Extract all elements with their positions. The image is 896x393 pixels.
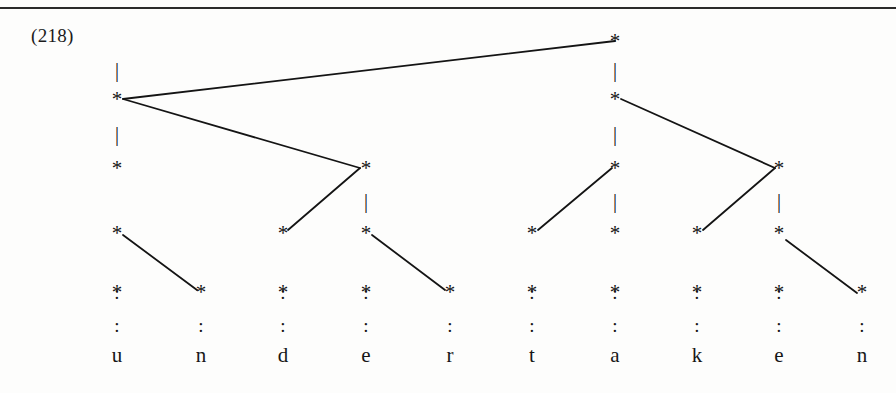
segment-label-5: t	[529, 345, 535, 366]
association-line-e-to-r-level1	[372, 235, 445, 290]
segment-label-2: d	[278, 345, 289, 366]
grid-mark-level4-col0: *	[112, 89, 123, 110]
grid-stem-col0-5-4: |	[115, 60, 119, 80]
grid-dot-col6-row6: :	[612, 316, 617, 335]
segment-label-0: u	[112, 345, 123, 366]
grid-stem-col0-4-3: |	[115, 124, 119, 144]
grid-mark-level1-col1: *	[196, 282, 207, 303]
segment-label-4: r	[447, 345, 454, 366]
grid-dot-col3-row6: :	[363, 316, 368, 335]
grid-stem-col6-4-3: |	[613, 124, 617, 144]
grid-stem-col3-3-2: |	[364, 191, 368, 211]
grid-dot-col7-row5: :	[694, 283, 699, 302]
association-line-u-to-e-level3	[123, 99, 360, 168]
grid-mark-level2-col7: *	[692, 223, 703, 244]
grid-mark-level1-col9: *	[857, 282, 868, 303]
grid-dot-col8-row5: :	[776, 283, 781, 302]
grid-mark-level4-col6: *	[610, 89, 621, 110]
grid-mark-level5-col6: *	[610, 31, 621, 52]
grid-mark-level2-col5: *	[527, 223, 538, 244]
grid-mark-level3-col0: *	[112, 158, 123, 179]
grid-mark-level2-col3: *	[361, 223, 372, 244]
grid-dot-col0-row5: :	[114, 283, 119, 302]
grid-mark-level2-col0: *	[112, 223, 123, 244]
grid-mark-level3-col8: *	[774, 158, 785, 179]
segment-label-9: n	[857, 345, 868, 366]
segment-label-3: e	[361, 345, 370, 366]
grid-mark-level3-col6: *	[610, 158, 621, 179]
association-line-a-to-e-level3	[621, 99, 775, 168]
segment-label-7: k	[692, 345, 703, 366]
grid-dot-col5-row5: :	[529, 283, 534, 302]
association-line-u-to-n-level1	[123, 235, 197, 290]
grid-stem-col6-5-4: |	[613, 60, 617, 80]
grid-stem-col8-3-2: |	[777, 191, 781, 211]
grid-dot-col3-row5: :	[363, 283, 368, 302]
segment-label-1: n	[196, 345, 207, 366]
example-figure-page: (218) ************************|||||||:::…	[0, 0, 896, 393]
grid-dot-col0-row6: :	[114, 316, 119, 335]
grid-dot-col2-row5: :	[280, 283, 285, 302]
association-line-e-to-d-level2	[288, 168, 360, 230]
association-line-e-to-k-level2	[703, 168, 775, 230]
grid-mark-level3-col3: *	[361, 158, 372, 179]
grid-mark-level2-col6: *	[610, 223, 621, 244]
grid-stem-col6-3-2: |	[613, 191, 617, 211]
grid-dot-col8-row6: :	[776, 316, 781, 335]
grid-dot-col5-row6: :	[529, 316, 534, 335]
grid-mark-level2-col2: *	[278, 223, 289, 244]
association-line-apex-to-u	[123, 41, 615, 99]
grid-dot-col2-row6: :	[280, 316, 285, 335]
segment-label-6: a	[610, 345, 619, 366]
grid-mark-level1-col4: *	[445, 282, 456, 303]
association-line-e-to-n-level1	[786, 240, 857, 293]
grid-mark-level2-col8: *	[774, 223, 785, 244]
grid-dot-col6-row5: :	[612, 283, 617, 302]
segment-label-8: e	[774, 345, 783, 366]
grid-dot-col9-row6: :	[859, 316, 864, 335]
grid-dot-col4-row6: :	[447, 316, 452, 335]
grid-dot-col1-row6: :	[198, 316, 203, 335]
grid-dot-col7-row6: :	[694, 316, 699, 335]
association-line-a-to-t-level2	[538, 168, 612, 230]
